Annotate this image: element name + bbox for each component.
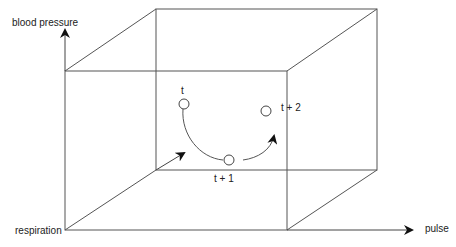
cube-edge-top-right <box>287 9 377 71</box>
cube-drawing <box>0 0 456 247</box>
state-circle-t2 <box>261 106 271 116</box>
state-label-t1: t + 1 <box>214 174 234 184</box>
respiration-axis-arrow <box>156 153 184 170</box>
state-label-t: t <box>181 86 184 96</box>
trajectory-t-to-t1 <box>183 109 223 160</box>
cube-front-face <box>65 71 287 230</box>
axis-label-pulse: pulse <box>425 224 449 234</box>
cube-edge-bottom-right <box>287 170 377 230</box>
state-circle-t1 <box>224 155 234 165</box>
axis-label-blood-pressure: blood pressure <box>12 18 78 28</box>
state-label-t2: t + 2 <box>281 103 301 113</box>
state-circle-t <box>179 99 189 109</box>
axis-label-respiration: respiration <box>15 226 62 236</box>
trajectory-t1-to-t2-arrow <box>243 136 274 160</box>
state-space-diagram: blood pressure respiration pulse t t + 1… <box>0 0 456 247</box>
cube-edge-bottom-left <box>65 170 156 230</box>
cube-back-face <box>156 9 377 170</box>
cube-edge-top-left <box>65 9 156 71</box>
